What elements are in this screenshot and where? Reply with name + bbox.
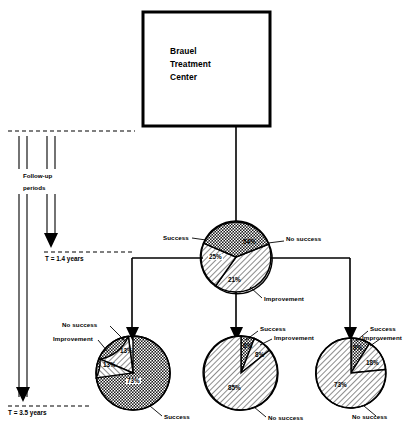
pie-improvement-value-success: 6% xyxy=(243,343,252,349)
pie-nosuccess-value-improvement: 18% xyxy=(366,360,379,366)
followup-periods-line-1: Follow-up xyxy=(23,170,52,182)
pie-t35-improvement xyxy=(203,336,278,410)
pie-t14-value-improvement: 21% xyxy=(228,277,241,283)
followup-arrow-t14 xyxy=(44,233,58,248)
diagram-canvas: Brauel Treatment Center Follow-up period… xyxy=(0,0,408,434)
pie-t14-value-success: 25% xyxy=(208,254,223,260)
pie-improvement-value-improvement: 8% xyxy=(255,352,264,358)
pie-nosuccess-label-success: Success xyxy=(370,326,396,332)
followup-periods-line-2: periods xyxy=(23,182,52,194)
pie-success-label-no-success: No success xyxy=(62,322,97,328)
treatment-center-title: Brauel Treatment Center xyxy=(170,45,211,84)
pie-improvement-label-no-success: No success xyxy=(268,415,303,421)
pie-nosuccess-label-improvement: Improvement xyxy=(362,335,402,341)
pie-t14-label-no-success: No success xyxy=(286,236,321,242)
pie-improvement-label-success: Success xyxy=(260,326,286,332)
t-label-1-4-years: T = 1.4 years xyxy=(45,255,84,262)
pie-t14-label-success: Success xyxy=(163,235,189,241)
pie-t35-nosuccess xyxy=(316,338,386,408)
treatment-center-line-1: Brauel xyxy=(170,45,211,58)
pie-t14-value-no-success: 54% xyxy=(243,239,256,245)
treatment-center-line-3: Center xyxy=(170,71,211,84)
pie-t14-label-improvement: Improvement xyxy=(264,296,304,302)
pie-success-value-no-success: 13% xyxy=(103,362,116,368)
pie-nosuccess-value-no-success: 73% xyxy=(334,382,347,388)
pie-improvement-value-no-success: 85% xyxy=(228,385,241,391)
pie-success-value-improvement: 13% xyxy=(120,348,133,354)
t-label-3-5-years: T = 3.5 years xyxy=(8,409,47,416)
pie-success-label-success: Success xyxy=(164,414,190,420)
pie-success-label-improvement: Improvement xyxy=(53,336,93,342)
followup-periods-label: Follow-up periods xyxy=(23,170,52,194)
pie-nosuccess-label-no-success: No success xyxy=(352,414,387,420)
treatment-center-line-2: Treatment xyxy=(170,58,211,71)
followup-arrow-t35 xyxy=(16,387,30,402)
pie-t35-success xyxy=(96,336,170,410)
pie-success-value-success: 73% xyxy=(126,378,141,384)
pie-improvement-label-improvement: Improvement xyxy=(274,335,314,341)
pie-nosuccess-value-success: 9% xyxy=(353,345,362,351)
